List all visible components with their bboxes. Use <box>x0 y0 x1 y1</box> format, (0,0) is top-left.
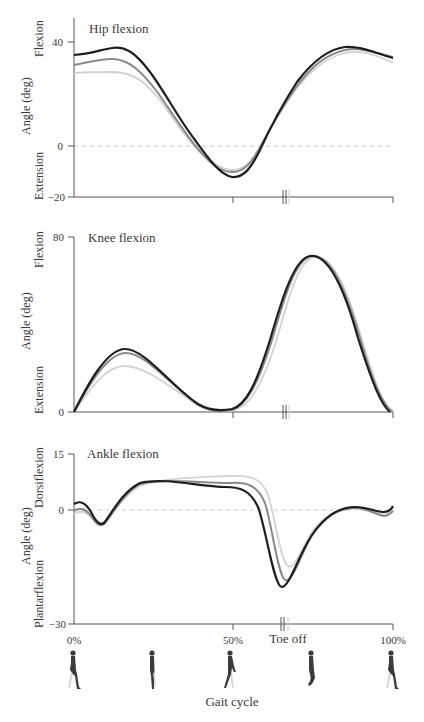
hip-panel: Hip flexion 40 0 −20 Flexion Extension A… <box>19 18 393 204</box>
x-tick-0: 0% <box>67 634 82 646</box>
ankle-angle-label: Angle (deg) <box>19 507 33 565</box>
ankle-dorsiflexion-label: Dorsiflexion <box>32 447 46 508</box>
hip-angle-label: Angle (deg) <box>19 77 33 135</box>
knee-flexion-label: Flexion <box>32 231 46 268</box>
toe-off-label: Toe off <box>269 631 307 646</box>
knee-ymax-label: 80 <box>53 231 65 243</box>
x-axis-title: Gait cycle <box>205 694 258 709</box>
walker-figure-4 <box>386 650 399 689</box>
knee-series-mid <box>74 256 393 412</box>
walker-figure-2 <box>224 650 236 688</box>
hip-ymax-label: 40 <box>52 36 64 48</box>
knee-angle-label: Angle (deg) <box>19 292 33 350</box>
ankle-panel: Ankle flexion 15 0 −30 Dorsiflexion Plan… <box>19 446 393 631</box>
knee-yzero-label: 0 <box>59 406 65 418</box>
ankle-series-mid <box>74 481 393 580</box>
ankle-plantarflexion-label: Plantarflexion <box>32 560 46 628</box>
hip-title: Hip flexion <box>89 21 149 36</box>
walker-figure-3 <box>308 650 315 686</box>
walker-figure-0 <box>68 650 81 689</box>
knee-series-light <box>74 257 393 412</box>
hip-yzero-label: 0 <box>58 140 64 152</box>
ankle-yzero-label: 0 <box>59 504 65 516</box>
ankle-ymin-label: −30 <box>49 618 67 630</box>
hip-extension-label: Extension <box>32 152 46 200</box>
hip-ymin-label: −20 <box>48 191 66 203</box>
gait-figure: Hip flexion 40 0 −20 Flexion Extension A… <box>0 0 424 722</box>
knee-series-dark <box>74 256 390 412</box>
hip-series-mid <box>74 49 393 172</box>
knee-panel: Knee flexion 80 0 Flexion Extension Angl… <box>19 230 393 419</box>
hip-flexion-label: Flexion <box>32 20 46 57</box>
walker-figure-1 <box>149 650 156 689</box>
ankle-ymax-label: 15 <box>53 448 65 460</box>
x-tick-50: 50% <box>223 634 243 646</box>
ankle-series-dark <box>74 481 393 587</box>
hip-series-dark <box>74 47 393 177</box>
knee-extension-label: Extension <box>32 366 46 414</box>
knee-title: Knee flexion <box>88 230 156 245</box>
x-tick-100: 100% <box>380 634 406 646</box>
hip-series-light <box>74 52 393 170</box>
ankle-series-light <box>74 476 393 567</box>
ankle-title: Ankle flexion <box>87 446 159 461</box>
